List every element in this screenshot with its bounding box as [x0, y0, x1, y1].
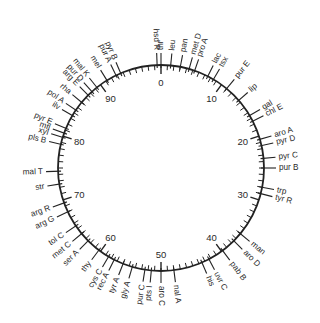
minor-tick — [214, 251, 217, 255]
minor-tick — [232, 97, 236, 100]
minor-tick — [78, 226, 82, 229]
minor-tick — [214, 81, 217, 85]
minor-tick — [247, 118, 251, 120]
gene-marker: lip — [236, 81, 259, 102]
scale-number-30: 30 — [238, 189, 249, 200]
gene-label: pan — [178, 37, 189, 53]
gene-marker: pyr C — [261, 150, 299, 161]
minor-tick — [74, 221, 78, 224]
minor-tick — [228, 239, 231, 243]
minor-tick — [191, 70, 193, 75]
minor-tick — [252, 204, 257, 206]
scale-number-50: 50 — [156, 249, 167, 260]
major-tick — [250, 136, 259, 139]
gene-tick — [225, 79, 235, 91]
scale-number-10: 10 — [206, 93, 217, 104]
minor-tick — [111, 78, 113, 82]
gene-label: hsd R — [152, 29, 162, 51]
gene-label: gly A — [118, 279, 132, 299]
scale-number-80: 80 — [74, 136, 85, 147]
scale-number-20: 20 — [238, 136, 249, 147]
minor-tick — [117, 257, 119, 262]
minor-tick — [240, 107, 244, 110]
minor-tick — [148, 66, 149, 71]
minor-tick — [129, 70, 131, 75]
minor-tick — [90, 239, 93, 243]
gene-tick — [157, 53, 158, 68]
gene-tick — [89, 78, 98, 90]
minor-tick — [203, 257, 205, 262]
scale-number-60: 60 — [105, 232, 116, 243]
gene-marker: aro C — [157, 268, 166, 306]
minor-tick — [237, 102, 241, 105]
minor-tick — [148, 265, 149, 270]
gene-label: pyr C — [278, 150, 298, 161]
minor-tick — [59, 180, 64, 181]
gene-label: pur B — [279, 163, 299, 172]
gene-label: tyr R — [274, 193, 293, 206]
minor-tick — [185, 263, 186, 268]
gene-tick — [80, 239, 91, 250]
minor-tick — [123, 72, 125, 77]
scale-number-70: 70 — [74, 189, 85, 200]
minor-tick — [173, 66, 174, 71]
gene-marker: nal A — [172, 267, 183, 304]
minor-tick — [250, 124, 255, 126]
minor-tick — [61, 192, 66, 193]
minor-tick — [74, 113, 78, 116]
major-tick — [216, 244, 221, 251]
gene-label: pur E — [232, 59, 252, 80]
minor-tick — [71, 118, 75, 120]
minor-tick — [232, 235, 236, 238]
gene-label: lip — [247, 81, 259, 93]
minor-tick — [61, 142, 66, 143]
gene-label: aro C — [157, 286, 166, 306]
minor-tick — [59, 155, 64, 156]
minor-tick — [71, 215, 75, 217]
minor-tick — [208, 78, 210, 82]
minor-tick — [244, 113, 248, 116]
gene-marker: leu — [167, 39, 177, 69]
gene-label: pur C — [135, 284, 147, 305]
minor-tick — [135, 263, 136, 268]
major-tick — [216, 85, 221, 92]
gene-tick — [221, 248, 230, 260]
minor-tick — [135, 68, 136, 73]
minor-tick — [244, 221, 248, 224]
gene-label: mal T — [23, 167, 44, 177]
gene-tick — [72, 232, 84, 242]
gene-label: mel — [89, 54, 104, 70]
minor-tick — [197, 259, 199, 264]
minor-tick — [258, 155, 263, 156]
minor-tick — [117, 75, 119, 80]
major-tick — [100, 85, 105, 92]
gene-marker: str — [35, 182, 63, 192]
minor-tick — [86, 235, 90, 238]
minor-tick — [191, 261, 193, 266]
minor-tick — [223, 244, 226, 248]
minor-tick — [68, 124, 73, 126]
gene-label: nal A — [172, 284, 183, 304]
minor-tick — [252, 130, 257, 132]
minor-tick — [65, 204, 70, 206]
gene-tick — [66, 103, 78, 111]
gene-marker: pts I — [144, 268, 154, 302]
minor-tick — [250, 210, 255, 212]
minor-tick — [95, 244, 98, 248]
minor-tick — [228, 93, 231, 97]
minor-tick — [240, 226, 244, 229]
gene-marker: hsd R — [152, 29, 162, 69]
gene-label: thy — [79, 259, 93, 274]
minor-tick — [86, 97, 90, 100]
minor-tick — [247, 215, 251, 217]
minor-tick — [129, 261, 131, 266]
minor-tick — [258, 180, 263, 181]
gene-marker: pur B — [261, 163, 299, 172]
gene-marker: mal T — [23, 167, 61, 177]
minor-tick — [78, 107, 82, 110]
major-tick — [63, 197, 72, 200]
gene-label: pab B — [228, 260, 248, 283]
gene-tick — [232, 239, 243, 250]
gene-marker: tyr R — [258, 193, 293, 206]
minor-tick — [256, 142, 261, 143]
